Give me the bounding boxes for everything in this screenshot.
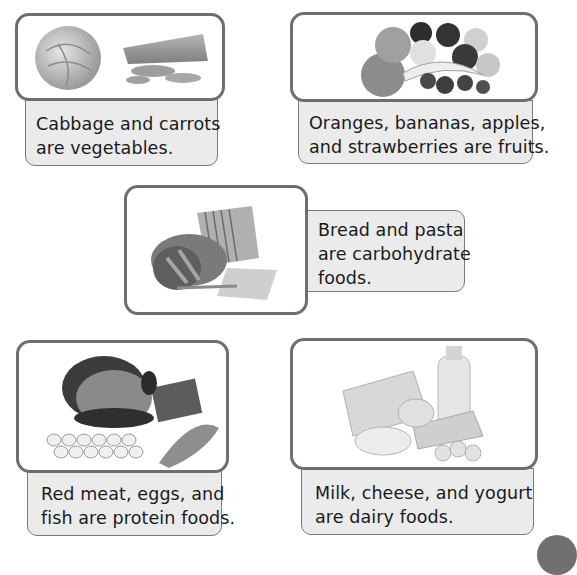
protein-photo — [16, 340, 229, 473]
caption-line: Red meat, eggs, and — [41, 482, 211, 506]
caption-line: are vegetables. — [36, 136, 207, 160]
dairy-caption: Milk, cheese, and yogurt are dairy foods… — [301, 468, 534, 535]
dairy-photo — [290, 338, 538, 470]
caption-line: foods. — [318, 266, 454, 290]
cabbage-carrots-image — [18, 16, 222, 98]
fruits-photo — [290, 12, 538, 102]
caption-line: fish are protein foods. — [41, 506, 211, 530]
milk-cheese-yogurt-image — [293, 341, 535, 467]
carbohydrates-caption: Bread and pasta are carbohydrate foods. — [305, 210, 465, 292]
page-number-tab — [537, 535, 577, 575]
caption-line: Bread and pasta — [318, 218, 454, 242]
caption-line: are dairy foods. — [315, 505, 523, 529]
caption-line: Oranges, bananas, apples, — [309, 111, 522, 135]
fruits-caption: Oranges, bananas, apples, and strawberri… — [298, 100, 533, 164]
caption-line: and strawberries are fruits. — [309, 135, 522, 159]
caption-line: are carbohydrate — [318, 242, 454, 266]
vegetables-photo — [15, 13, 225, 101]
bread-pasta-image — [127, 188, 305, 312]
caption-line: Cabbage and carrots — [36, 112, 207, 136]
carbohydrates-photo — [124, 185, 308, 315]
caption-line: Milk, cheese, and yogurt — [315, 481, 523, 505]
meat-eggs-fish-image — [19, 343, 226, 470]
fruits-image — [293, 15, 535, 99]
vegetables-caption: Cabbage and carrots are vegetables. — [25, 99, 218, 166]
protein-caption: Red meat, eggs, and fish are protein foo… — [27, 471, 222, 536]
